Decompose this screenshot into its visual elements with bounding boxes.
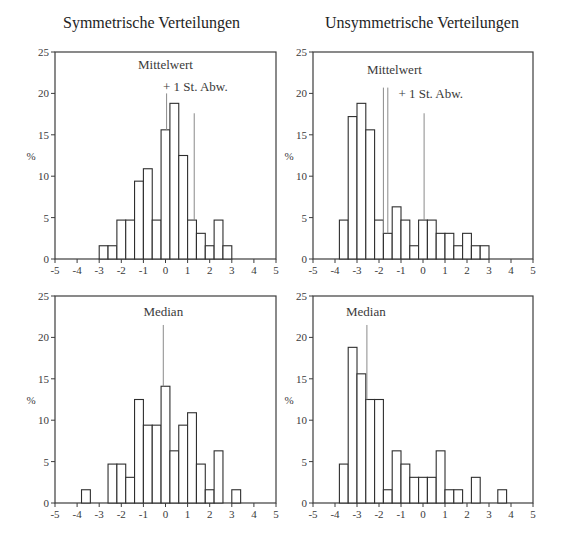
x-tick-label: 4 <box>508 508 514 520</box>
x-tick-label: 3 <box>486 508 492 520</box>
histogram-bar <box>339 464 348 503</box>
histogram-asymmetric-median: 0510152025-5-4-3-2-1012345%Median <box>0 0 561 544</box>
y-tick-label: 10 <box>296 414 308 426</box>
y-axis-label: % <box>284 394 293 406</box>
x-tick-label: -1 <box>396 508 405 520</box>
histogram-bar <box>383 490 392 503</box>
y-tick-label: 15 <box>296 373 308 385</box>
x-tick-label: -2 <box>374 508 383 520</box>
histogram-bar <box>471 477 480 503</box>
histogram-bar <box>348 347 357 503</box>
histogram-bar <box>454 490 463 503</box>
histogram-bar <box>375 400 384 504</box>
histogram-bar <box>498 490 507 503</box>
annotation-label: Median <box>346 304 386 319</box>
histogram-bar <box>419 477 428 503</box>
y-tick-label: 20 <box>296 331 308 343</box>
histogram-bar <box>357 374 366 503</box>
x-tick-label: -4 <box>330 508 340 520</box>
y-tick-label: 25 <box>296 290 308 302</box>
x-tick-label: -3 <box>352 508 362 520</box>
histogram-bar <box>392 451 401 503</box>
histogram-bar <box>366 400 375 504</box>
x-tick-label: 1 <box>442 508 448 520</box>
histogram-bar <box>401 464 410 503</box>
y-tick-label: 0 <box>302 497 308 509</box>
histogram-bar <box>436 451 445 503</box>
histogram-bar <box>445 490 454 503</box>
x-tick-label: -5 <box>308 508 318 520</box>
x-tick-label: 2 <box>464 508 470 520</box>
x-tick-label: 0 <box>420 508 426 520</box>
histogram-bar <box>427 477 436 503</box>
x-tick-label: 5 <box>530 508 536 520</box>
histogram-bar <box>410 477 419 503</box>
y-tick-label: 5 <box>302 456 308 468</box>
